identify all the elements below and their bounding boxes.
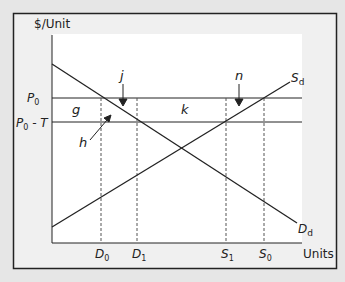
x-axis-label: Units — [303, 247, 334, 261]
area-label-n: n — [235, 68, 243, 83]
area-label-k: k — [181, 102, 189, 117]
supply-demand-diagram: $/Unit Units P0 P0 - T Sd Dd D0 D1 S1 S0… — [0, 0, 345, 282]
y-axis-label: $/Unit — [34, 17, 70, 31]
area-label-g: g — [72, 102, 80, 117]
price-label-p0-minus-t: P0 - T — [16, 116, 49, 132]
area-label-h: h — [79, 135, 87, 150]
